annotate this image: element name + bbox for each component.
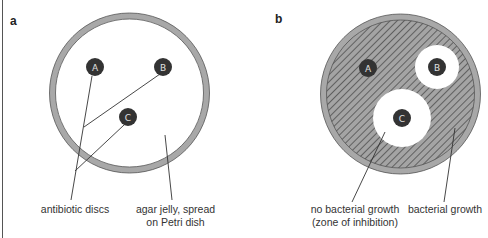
- disc-b-B: B: [428, 58, 446, 76]
- disc-b-A: A: [359, 59, 377, 77]
- svg-text:A: A: [365, 64, 372, 74]
- petri-dish-a: [50, 13, 210, 173]
- disc-a-C: C: [119, 108, 137, 126]
- disc-b-C: C: [393, 109, 411, 127]
- caption-agar-line2: on Petri dish: [128, 216, 223, 229]
- disc-a-B: B: [154, 58, 172, 76]
- svg-text:A: A: [92, 63, 99, 73]
- svg-text:B: B: [160, 63, 166, 73]
- disc-a-A: A: [86, 58, 104, 76]
- svg-text:C: C: [125, 113, 131, 123]
- caption-antibiotic-discs: antibiotic discs: [30, 203, 120, 216]
- svg-text:C: C: [399, 114, 405, 124]
- caption-no-growth-line1: no bacterial growth: [303, 203, 407, 216]
- caption-bacterial-growth: bacterial growth: [402, 203, 488, 216]
- svg-text:B: B: [434, 63, 440, 73]
- caption-agar-line1: agar jelly, spread: [128, 203, 223, 216]
- caption-no-growth-line2: (zone of inhibition): [303, 216, 407, 229]
